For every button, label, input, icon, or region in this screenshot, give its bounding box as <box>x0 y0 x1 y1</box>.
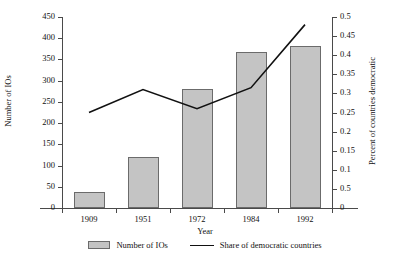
legend-item-share-of-democratic-countries: Share of democratic countries <box>190 240 322 250</box>
legend-label-number-of-ios: Number of IOs <box>116 240 167 250</box>
right-axis-tick-label: 0.1 <box>340 165 351 174</box>
right-axis-tick <box>333 113 337 114</box>
x-axis-title: Year <box>0 226 410 236</box>
line-series <box>62 17 332 208</box>
chart-figure: 050100150200250300350400450 00.50.10.150… <box>0 0 410 258</box>
x-axis-tick-label: 1984 <box>229 214 273 224</box>
right-axis-tick <box>333 74 337 75</box>
x-axis-tick <box>278 208 279 213</box>
right-axis-tick-label: 0 <box>340 203 344 212</box>
left-axis-tick-label: 200 <box>42 118 55 127</box>
right-axis-tick <box>333 36 337 37</box>
right-axis-tick <box>333 55 337 56</box>
x-axis-tick <box>170 208 171 213</box>
x-axis-tick-label: 1972 <box>175 214 219 224</box>
left-axis-tick-label: 350 <box>42 54 55 63</box>
x-axis-tick-label: 1909 <box>67 214 111 224</box>
left-axis-tick-label: 400 <box>42 33 55 42</box>
right-axis-tick <box>333 132 337 133</box>
left-axis-tick-label: 450 <box>42 12 55 21</box>
x-axis-tick <box>224 208 225 213</box>
right-axis-tick-label: 0.3 <box>340 88 351 97</box>
x-axis-line <box>40 208 358 209</box>
x-axis-tick <box>116 208 117 213</box>
right-axis-tick-label: 0.2 <box>340 127 351 136</box>
right-axis-tick <box>333 93 337 94</box>
right-axis-tick-label: 0.5 <box>340 184 351 193</box>
left-axis-tick-label: 50 <box>47 182 56 191</box>
left-axis-title: Number of IOs <box>3 59 13 143</box>
right-axis-title: Percent of countries democratic <box>367 36 377 186</box>
right-axis-tick-label: 0.15 <box>340 146 355 155</box>
right-axis-tick-label: 0.45 <box>340 31 355 40</box>
right-axis-tick-label: 0.25 <box>340 108 355 117</box>
left-axis-tick-label: 0 <box>51 203 55 212</box>
x-axis-tick <box>332 208 333 213</box>
x-axis-tick-label: 1951 <box>121 214 165 224</box>
bar-swatch-icon <box>88 241 110 249</box>
line-swatch-icon <box>190 245 214 246</box>
left-axis-tick-label: 100 <box>42 161 55 170</box>
right-axis-tick <box>333 189 337 190</box>
right-axis-tick-label: 0.35 <box>340 69 355 78</box>
left-axis-tick-label: 150 <box>42 139 55 148</box>
x-axis-tick <box>62 208 63 213</box>
right-axis-tick-label: 0.4 <box>340 50 351 59</box>
legend-item-number-of-ios: Number of IOs <box>88 240 167 250</box>
right-axis-tick <box>333 170 337 171</box>
right-axis-tick <box>333 151 337 152</box>
chart-legend: Number of IOs Share of democratic countr… <box>0 240 410 250</box>
left-axis-tick-label: 300 <box>42 76 55 85</box>
legend-label-share-of-democratic-countries: Share of democratic countries <box>220 240 322 250</box>
right-axis-tick <box>333 17 337 18</box>
left-axis-tick-label: 250 <box>42 97 55 106</box>
plot-area <box>62 17 332 208</box>
x-axis-tick-label: 1992 <box>283 214 327 224</box>
right-axis-tick <box>333 208 337 209</box>
right-axis-tick-label: 0.5 <box>340 12 351 21</box>
